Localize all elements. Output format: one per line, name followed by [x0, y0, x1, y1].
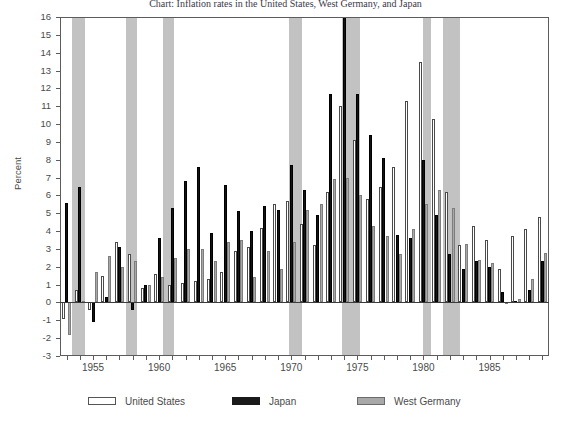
- plot-frame: [60, 17, 549, 356]
- y-axis-tick-label: 3: [20, 243, 51, 254]
- y-axis-tick: [56, 267, 60, 268]
- x-axis-tick: [542, 356, 543, 360]
- y-axis-tick-label: 5: [20, 207, 51, 218]
- y-axis-tick: [56, 356, 60, 357]
- x-axis-tick-label: 1965: [205, 362, 245, 373]
- legend-label-west-germany: West Germany: [394, 396, 461, 407]
- x-axis-tick: [106, 356, 107, 360]
- y-axis-tick-label: -2: [20, 332, 51, 343]
- x-axis-tick: [238, 356, 239, 360]
- chart-figure: Chart: Inflation rates in the United Sta…: [0, 0, 571, 433]
- us-swatch: [88, 397, 116, 405]
- y-axis-tick: [56, 17, 60, 18]
- x-axis-tick: [437, 356, 438, 360]
- legend-label-japan: Japan: [269, 396, 296, 407]
- chart-legend: United States Japan West Germany: [0, 391, 571, 413]
- x-axis-tick: [278, 356, 279, 360]
- y-axis-tick: [56, 213, 60, 214]
- x-axis-tick: [476, 356, 477, 360]
- x-axis-tick: [357, 356, 358, 360]
- x-axis-tick: [133, 356, 134, 360]
- x-axis-tick-label: 1975: [337, 362, 377, 373]
- y-axis-tick-label: -3: [20, 350, 51, 361]
- y-axis-tick-label: 15: [20, 29, 51, 40]
- x-axis-tick: [423, 356, 424, 360]
- x-axis-tick: [318, 356, 319, 360]
- y-axis-tick-label: 4: [20, 225, 51, 236]
- y-axis-tick: [56, 124, 60, 125]
- chart-title: Chart: Inflation rates in the United Sta…: [0, 0, 571, 9]
- legend-item-japan[interactable]: Japan: [232, 391, 296, 411]
- legend-item-united-states[interactable]: United States: [88, 391, 185, 411]
- x-axis-tick: [212, 356, 213, 360]
- y-axis-tick: [56, 338, 60, 339]
- y-axis-tick-label: 0: [20, 296, 51, 307]
- x-axis-tick: [146, 356, 147, 360]
- y-axis-tick-label: 11: [20, 100, 51, 111]
- legend-label-united-states: United States: [125, 396, 185, 407]
- x-axis-tick: [463, 356, 464, 360]
- x-axis-tick: [252, 356, 253, 360]
- x-axis-tick-label: 1960: [139, 362, 179, 373]
- zero-line: [60, 302, 549, 303]
- x-axis-tick-label: 1970: [271, 362, 311, 373]
- x-axis-tick: [503, 356, 504, 360]
- y-axis-tick: [56, 160, 60, 161]
- x-axis-tick: [450, 356, 451, 360]
- y-axis-tick-label: 13: [20, 65, 51, 76]
- y-axis-tick: [56, 142, 60, 143]
- y-axis-tick: [56, 88, 60, 89]
- y-axis-tick-label: 10: [20, 118, 51, 129]
- x-axis-tick: [265, 356, 266, 360]
- x-axis-tick: [529, 356, 530, 360]
- y-axis-tick-label: 8: [20, 154, 51, 165]
- x-axis-tick: [67, 356, 68, 360]
- x-axis-tick: [93, 356, 94, 360]
- x-axis-tick: [225, 356, 226, 360]
- y-axis-tick-label: 16: [20, 11, 51, 22]
- y-axis-tick: [56, 231, 60, 232]
- y-axis-tick: [56, 195, 60, 196]
- x-axis-tick: [80, 356, 81, 360]
- x-axis-tick-label: 1985: [470, 362, 510, 373]
- x-axis-tick: [291, 356, 292, 360]
- y-axis-tick-label: 6: [20, 189, 51, 200]
- y-axis-tick: [56, 106, 60, 107]
- y-axis-tick-label: 14: [20, 47, 51, 58]
- west-germany-swatch: [357, 397, 385, 405]
- x-axis-tick: [172, 356, 173, 360]
- x-axis-tick: [199, 356, 200, 360]
- x-axis-tick: [490, 356, 491, 360]
- y-axis-tick: [56, 178, 60, 179]
- y-axis-tick: [56, 35, 60, 36]
- x-axis-tick-label: 1955: [73, 362, 113, 373]
- x-axis-tick: [119, 356, 120, 360]
- x-axis-tick: [516, 356, 517, 360]
- x-axis-tick: [159, 356, 160, 360]
- x-axis-tick: [186, 356, 187, 360]
- legend-item-west-germany[interactable]: West Germany: [357, 391, 461, 411]
- x-axis-tick: [397, 356, 398, 360]
- y-axis-tick-label: 12: [20, 82, 51, 93]
- y-axis-tick-label: -1: [20, 314, 51, 325]
- y-axis-tick: [56, 53, 60, 54]
- x-axis-tick: [384, 356, 385, 360]
- y-axis-tick-label: 9: [20, 136, 51, 147]
- y-axis-tick-label: 1: [20, 279, 51, 290]
- x-axis-tick-label: 1980: [403, 362, 443, 373]
- x-axis-tick: [410, 356, 411, 360]
- y-axis-tick: [56, 302, 60, 303]
- x-axis-tick: [371, 356, 372, 360]
- x-axis-tick: [344, 356, 345, 360]
- y-axis-tick: [56, 285, 60, 286]
- x-axis-tick: [305, 356, 306, 360]
- x-axis-tick: [331, 356, 332, 360]
- y-axis-tick: [56, 320, 60, 321]
- y-axis-tick-label: 2: [20, 261, 51, 272]
- y-axis-tick: [56, 249, 60, 250]
- y-axis-tick: [56, 71, 60, 72]
- japan-swatch: [232, 397, 260, 405]
- y-axis-tick-label: 7: [20, 172, 51, 183]
